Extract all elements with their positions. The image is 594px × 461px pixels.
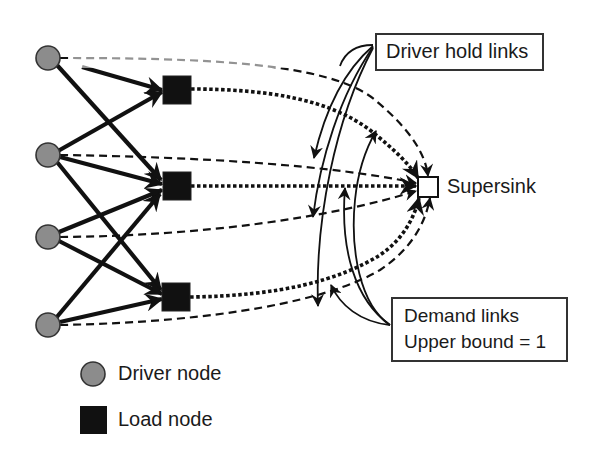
demand-links-label: Demand links [404,305,519,327]
upper-bound-label: Upper bound = 1 [404,331,546,353]
driver-node-4 [36,313,60,337]
legend-driver-label: Driver node [118,362,221,385]
driver-node-3 [36,225,60,249]
demand-pointers [331,131,390,325]
load-node-2 [163,172,191,200]
driver-hold-links [60,58,430,325]
driver-to-load-arcs [56,64,162,322]
driver-hold-link-4 [60,198,430,325]
faded-artifact [70,56,360,68]
driver-hold-pointers [313,45,373,306]
load-node-1 [163,76,191,104]
demand-links [190,89,419,297]
demand-links-callout: Demand links Upper bound = 1 [391,297,568,362]
driver-hold-links-label: Driver hold links [386,40,528,63]
driver-node-2 [36,143,60,167]
driver-node-1 [36,46,60,70]
driver-nodes [36,46,60,337]
driver-hold-links-callout: Driver hold links [375,33,544,71]
load-node-3 [162,283,190,311]
legend-load-icon [80,406,107,434]
load-nodes [162,76,191,311]
demand-link-1 [191,89,418,178]
legend-load-label: Load node [118,408,213,431]
legend-driver-icon [81,362,105,386]
supersink-node [418,177,438,197]
demand-link-3 [190,198,419,297]
supersink-label: Supersink [447,175,536,198]
